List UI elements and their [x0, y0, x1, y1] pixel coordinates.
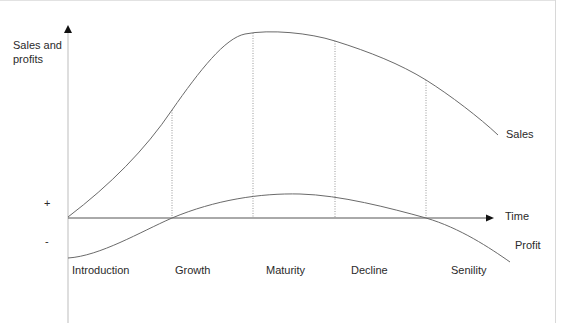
x-axis-label: Time	[505, 209, 529, 223]
profit-curve	[68, 194, 510, 262]
sales-curve	[68, 32, 498, 217]
stage-label-senility: Senility	[451, 263, 486, 277]
sales-curve-label: Sales	[506, 127, 534, 141]
stage-label-maturity: Maturity	[266, 263, 305, 277]
stage-label-introduction: Introduction	[72, 263, 129, 277]
stage-label-decline: Decline	[351, 263, 388, 277]
y-axis-arrow-icon	[64, 25, 72, 33]
y-axis-label-line2: profits	[13, 52, 62, 66]
plus-sign: +	[44, 196, 50, 210]
x-axis-arrow-icon	[486, 215, 494, 222]
y-axis-label: Sales and profits	[13, 38, 62, 66]
minus-sign: -	[45, 234, 49, 248]
profit-curve-label: Profit	[515, 238, 541, 252]
stage-label-growth: Growth	[175, 263, 210, 277]
y-axis-label-line1: Sales and	[13, 38, 62, 52]
product-life-cycle-diagram: Sales and profits + - Sales Profit Time …	[0, 0, 561, 323]
